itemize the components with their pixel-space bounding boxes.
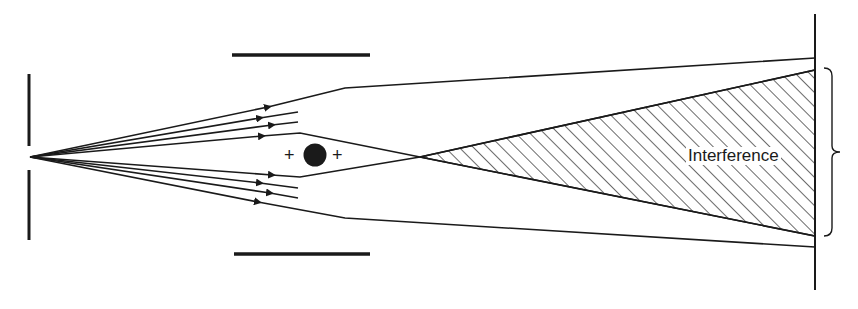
interference-label: Interference xyxy=(686,147,781,165)
charge-plus-right: + xyxy=(332,146,343,164)
interference-brace xyxy=(824,68,840,236)
charge-plus-left: + xyxy=(284,146,295,164)
charged-obstacle xyxy=(304,144,327,167)
